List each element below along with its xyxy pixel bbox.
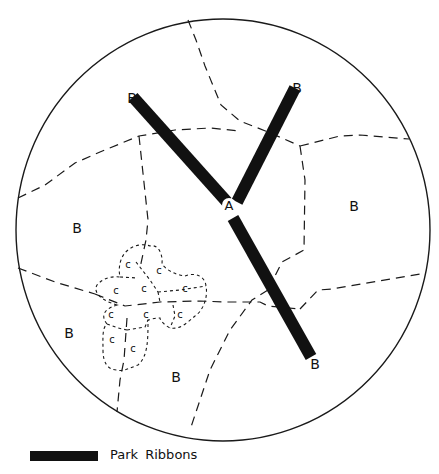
neighborhood-label: c (125, 259, 131, 270)
b-boundary-northeast (300, 135, 409, 146)
c-boundary-6 (127, 320, 148, 330)
park-ribbon-northeast (237, 88, 295, 202)
legend-label-park-ribbons: Park Ribbons (110, 447, 197, 462)
center-label-a: A (225, 198, 234, 213)
b-boundary-east-inner (268, 146, 305, 290)
b-boundary-north (188, 20, 300, 146)
ribbon-end-label-northeast: B (292, 80, 302, 96)
c-cluster-outline (96, 245, 207, 371)
b-boundary-east-lower (300, 274, 420, 309)
neighborhood-label: c (109, 334, 115, 345)
park-ribbon-southeast (233, 218, 311, 357)
park-ribbon-swatch (30, 451, 98, 461)
c-boundary-4 (158, 292, 160, 302)
park-ribbon-northwest (133, 97, 227, 202)
b-boundary-south-west (117, 318, 127, 412)
district-label-south: B (171, 369, 181, 385)
neighborhood-label: c (141, 283, 147, 294)
neighborhood-label: c (143, 309, 149, 320)
c-boundary-2 (120, 277, 138, 278)
c-boundary-7 (170, 305, 175, 328)
park-ribbons (133, 88, 311, 357)
ribbon-end-label-southeast: B (310, 356, 320, 372)
neighborhood-label: c (182, 283, 188, 294)
district-label-east: B (349, 198, 359, 214)
b-boundary-west-inner (139, 136, 148, 268)
c-neighborhood-cluster (96, 245, 207, 371)
neighborhood-label: c (130, 343, 136, 354)
district-label-west: B (72, 220, 82, 236)
district-label-southwest: B (64, 325, 74, 341)
legend: Park Ribbons (30, 447, 197, 462)
neighborhood-label: c (177, 309, 183, 320)
b-boundary-central (95, 294, 300, 309)
c-boundary-5 (107, 324, 127, 330)
neighborhood-label: c (108, 309, 114, 320)
b-boundary-south (190, 290, 268, 430)
neighborhood-label: c (113, 285, 119, 296)
diagram-canvas: A B B B B B B B c c c c c c c c c c (0, 0, 439, 474)
c-boundary-1 (136, 262, 158, 292)
neighborhood-label: c (156, 265, 162, 276)
ribbon-end-label-northwest: B (127, 90, 137, 106)
center-node: A (222, 198, 236, 213)
b-boundary-west-lower (18, 268, 95, 294)
